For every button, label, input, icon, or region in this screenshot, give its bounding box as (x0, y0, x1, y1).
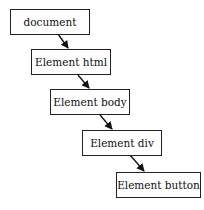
node-element-div: Element div (82, 130, 162, 156)
node-label: Element html (35, 56, 107, 68)
node-element-body: Element body (50, 89, 130, 115)
node-element-html: Element html (31, 49, 111, 75)
node-label: Element div (90, 137, 154, 149)
node-element-button: Element button (116, 172, 201, 198)
edge-body-div (100, 115, 112, 129)
node-label: Element button (117, 179, 200, 191)
edge-document-html (58, 34, 68, 48)
node-label: document (24, 16, 77, 28)
edge-div-button (130, 155, 144, 171)
node-document: document (10, 9, 90, 35)
node-label: Element body (53, 96, 126, 108)
edge-html-body (78, 75, 89, 88)
